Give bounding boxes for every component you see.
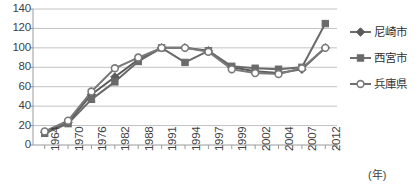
x-axis-tick-label: 1964 — [50, 127, 62, 151]
x-axis-tick-label: 1982 — [120, 127, 132, 151]
legend-label: 西宮市 — [374, 52, 406, 64]
x-axis-tick-label: 2002 — [261, 127, 273, 151]
line-chart: 020406080100120140 196419701976198219881… — [0, 0, 419, 190]
x-axis-tick-label: 2012 — [331, 127, 343, 151]
x-axis-unit-label: (年) — [368, 170, 386, 181]
x-axis-tick-label: 1997 — [214, 127, 226, 151]
legend-item-2[interactable]: 西宮市 — [350, 45, 419, 71]
legend-item-3[interactable]: 兵庫県 — [350, 71, 419, 97]
legend-marker-diamond-icon — [350, 26, 371, 38]
x-axis-tick-label: 1988 — [144, 127, 156, 151]
chart-legend: 尼崎市西宮市兵庫県 — [350, 19, 419, 97]
x-axis-tick-label: 1994 — [191, 127, 203, 151]
legend-label: 兵庫県 — [374, 78, 406, 90]
x-axis-tick-label: 1999 — [237, 127, 249, 151]
legend-item-1[interactable]: 尼崎市 — [350, 19, 419, 45]
x-axis-tick-label: 2004 — [284, 127, 296, 151]
legend-marker-square-icon — [350, 52, 371, 64]
x-axis-tick-label: 2007 — [307, 127, 319, 151]
x-axis-tick-label: 1970 — [74, 127, 86, 151]
legend-marker-circle-open-icon — [350, 78, 371, 90]
x-axis-tick-label: 1976 — [97, 127, 109, 151]
x-axis-tick-label: 1991 — [167, 127, 179, 151]
legend-label: 尼崎市 — [374, 26, 406, 38]
